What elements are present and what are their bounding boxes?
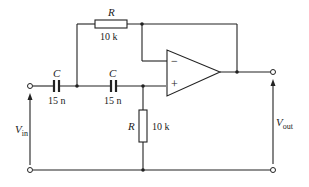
r-ground-symbol: R <box>128 121 135 132</box>
circuit-diagram: R 10 k C 15 n C 15 n R 10 k − + Vin Vout <box>0 0 309 187</box>
r-feedback-symbol: R <box>108 7 115 18</box>
vout-label: Vout <box>276 117 293 131</box>
capacitor-c2 <box>111 80 116 92</box>
vin-label: Vin <box>15 124 28 138</box>
vin-terminal <box>28 84 33 89</box>
opamp-inverting-input: − <box>171 55 178 67</box>
vout-terminal <box>271 70 276 75</box>
ground-terminal-right <box>271 168 276 173</box>
c1-symbol: C <box>53 68 60 79</box>
c2-value: 15 n <box>104 96 122 106</box>
c1-value: 15 n <box>48 96 66 106</box>
r-ground-value: 10 k <box>152 122 170 132</box>
resistor-feedback <box>95 20 127 28</box>
vout-arrow-icon <box>271 79 276 86</box>
resistor-ground <box>139 110 147 142</box>
opamp-noninverting-input: + <box>171 78 178 90</box>
schematic-wires <box>0 0 309 187</box>
capacitor-c1 <box>54 80 59 92</box>
c2-symbol: C <box>109 68 116 79</box>
ground-terminal-left <box>28 168 33 173</box>
vin-arrow-icon <box>28 93 33 100</box>
r-feedback-value: 10 k <box>100 32 118 42</box>
